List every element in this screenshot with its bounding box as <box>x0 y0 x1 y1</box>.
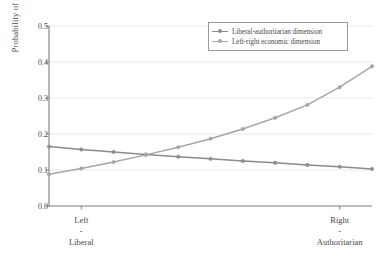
y-tick-label: 0.5 <box>26 22 48 31</box>
data-point <box>209 157 212 160</box>
y-tick-label: 0.3 <box>26 94 48 103</box>
data-point <box>144 153 147 156</box>
legend-item-liberal-authoritarian: Liberal-authoritarian dimension <box>212 27 343 36</box>
data-point <box>80 167 83 170</box>
data-point <box>112 150 115 153</box>
data-point <box>177 155 180 158</box>
x-tick-label: - <box>69 226 94 237</box>
data-point <box>177 146 180 149</box>
data-point <box>273 161 276 164</box>
data-point <box>306 163 309 166</box>
x-tick-label-group: Right-Authoritarian <box>317 215 363 248</box>
x-tick-label: Liberal <box>69 237 94 248</box>
data-point <box>338 165 341 168</box>
legend-marker-icon <box>212 28 228 35</box>
data-point <box>273 116 276 119</box>
x-tick-label: - <box>317 226 363 237</box>
data-point <box>241 127 244 130</box>
x-tick-label: Left <box>69 215 94 226</box>
y-tick-label: 0.4 <box>26 58 48 67</box>
data-point <box>370 65 373 68</box>
data-point <box>370 167 373 170</box>
legend-label: Liberal-authoritarian dimension <box>232 28 322 36</box>
y-tick-label: 0.2 <box>26 130 48 139</box>
x-tick-label: Right <box>317 215 363 226</box>
x-tick-label: Authoritarian <box>317 237 363 248</box>
legend-marker-icon <box>212 38 228 45</box>
data-point <box>241 159 244 162</box>
y-tick-label-container: 0.00.10.20.30.40.5 <box>26 0 48 259</box>
data-point <box>80 148 83 151</box>
y-tick-label: 0.1 <box>26 166 48 175</box>
data-point <box>209 137 212 140</box>
y-axis-label: Probability of switching <box>10 0 20 64</box>
x-tick-label-group: Left-Liberal <box>69 215 94 248</box>
data-point <box>112 160 115 163</box>
data-point <box>306 103 309 106</box>
legend-label: Left-right economic dimension <box>232 38 320 46</box>
y-tick-label: 0.0 <box>26 202 48 211</box>
chart-legend: Liberal-authoritarian dimension Left-rig… <box>208 22 348 51</box>
legend-item-left-right-economic: Left-right economic dimension <box>212 37 343 46</box>
data-point <box>338 86 341 89</box>
